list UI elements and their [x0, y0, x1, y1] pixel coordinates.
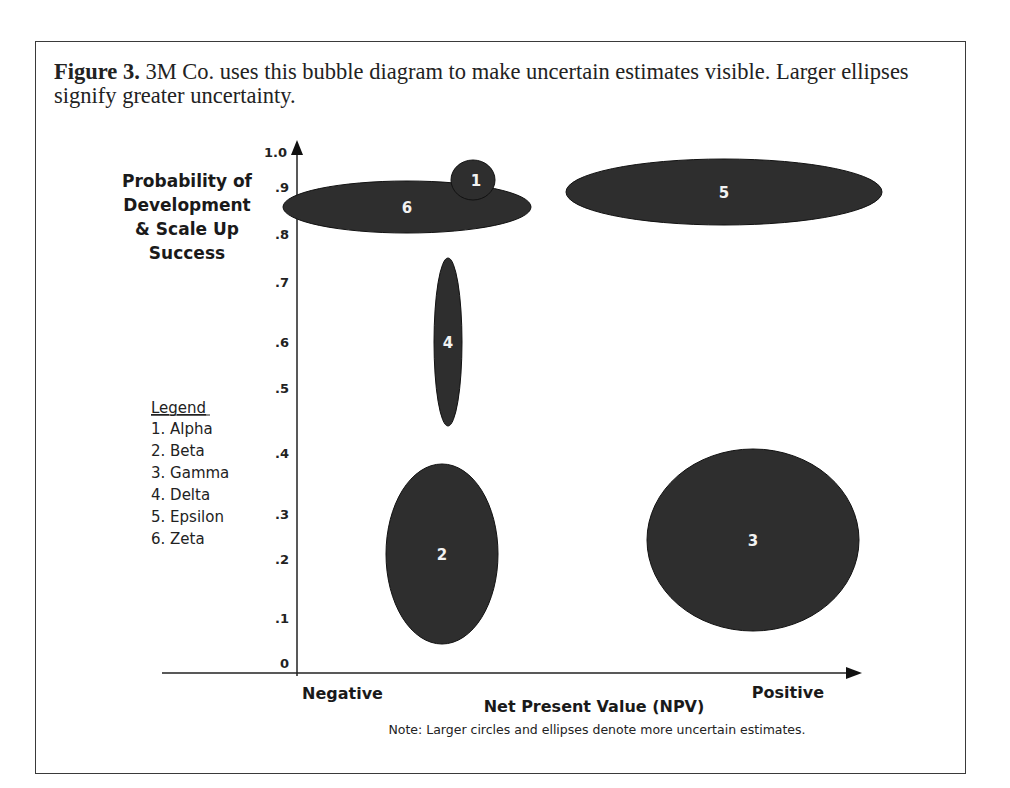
- legend-item: 2. Beta: [151, 442, 205, 460]
- x-axis-arrow-icon: [846, 667, 862, 679]
- bubble-gamma: 3: [647, 449, 859, 631]
- chart-note: Note: Larger circles and ellipses denote…: [388, 722, 805, 737]
- legend-item: 1. Alpha: [151, 420, 213, 438]
- y-tick: 1.0: [264, 145, 287, 160]
- y-tick: .1: [275, 611, 289, 626]
- y-label-line: Success: [149, 243, 225, 263]
- legend-item: 6. Zeta: [151, 530, 205, 548]
- bubble-zeta: 6: [283, 181, 531, 233]
- bubble-alpha: 1: [451, 160, 495, 200]
- legend: Legend 1. Alpha 2. Beta 3. Gamma 4. Delt…: [151, 399, 229, 548]
- bubble-label: 1: [471, 172, 481, 190]
- legend-item: 4. Delta: [151, 486, 210, 504]
- y-tick: .7: [275, 275, 289, 290]
- y-tick: .2: [275, 552, 289, 567]
- bubble-label: 4: [443, 334, 453, 352]
- bubble-delta: 4: [434, 258, 462, 426]
- bubble-label: 3: [748, 532, 758, 550]
- legend-item: 5. Epsilon: [151, 508, 224, 526]
- y-tick: .3: [275, 507, 289, 522]
- y-tick: .5: [275, 381, 289, 396]
- y-tick: .9: [275, 180, 289, 195]
- bubble-label: 5: [719, 184, 729, 202]
- y-axis-label: Probability of Development & Scale Up Su…: [122, 171, 253, 263]
- y-label-line: Probability of: [122, 171, 253, 191]
- legend-item: 3. Gamma: [151, 464, 229, 482]
- x-axis-negative-label: Negative: [302, 684, 383, 703]
- y-tick: .4: [275, 446, 289, 461]
- y-tick: .6: [275, 335, 289, 350]
- legend-title: Legend: [151, 399, 206, 417]
- bubble-label: 6: [402, 199, 412, 217]
- y-label-line: Development: [123, 195, 250, 215]
- bubble-beta: 2: [386, 464, 498, 644]
- x-axis-positive-label: Positive: [752, 683, 824, 702]
- y-label-line: & Scale Up: [135, 219, 239, 239]
- y-tick: 0: [280, 656, 289, 671]
- y-tick-labels: 1.0 .9 .8 .7 .6 .5 .4 .3 .2 .1 0: [264, 145, 289, 671]
- bubble-label: 2: [437, 546, 447, 564]
- bubble-epsilon: 5: [566, 159, 882, 225]
- x-axis-title: Net Present Value (NPV): [484, 697, 705, 716]
- y-axis-arrow-icon: [291, 140, 303, 155]
- bubble-chart: 1.0 .9 .8 .7 .6 .5 .4 .3 .2 .1 0 Probabi…: [0, 0, 1010, 788]
- y-tick: .8: [275, 227, 289, 242]
